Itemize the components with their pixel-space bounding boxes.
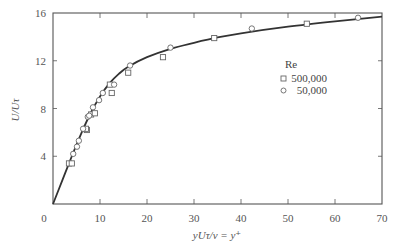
circle-marker — [86, 113, 91, 118]
circle-marker — [71, 151, 76, 156]
square-marker — [69, 161, 74, 166]
circle-marker — [111, 82, 116, 87]
y-axis-tick-labels: 481216 — [35, 7, 47, 162]
y-axis-ticks — [53, 61, 382, 157]
chart: 0 10203040506070 481216 yUτ/ν = y⁺ U/Uτ … — [0, 0, 397, 242]
square-marker — [304, 21, 309, 26]
x-tick-label: 50 — [283, 212, 295, 224]
circle-marker — [249, 26, 254, 31]
square-marker — [109, 90, 114, 95]
legend-title: Re — [285, 58, 297, 70]
x-axis-ticks — [100, 13, 335, 204]
fit-curve — [53, 17, 382, 204]
square-marker — [160, 55, 165, 60]
circle-marker — [96, 97, 101, 102]
square-marker-icon — [281, 76, 286, 81]
y-tick-label: 12 — [35, 55, 46, 67]
theory-curve — [53, 17, 382, 204]
x-tick-label: 20 — [142, 212, 154, 224]
y-tick-label: 4 — [41, 150, 47, 162]
circle-marker-icon — [281, 88, 286, 93]
plot-border — [53, 13, 382, 204]
square-marker — [212, 35, 217, 40]
x-tick-label: 40 — [236, 212, 248, 224]
x-axis-title: yUτ/ν = y⁺ — [192, 229, 242, 241]
y-axis-title: U/Uτ — [9, 98, 21, 122]
x-axis-tick-labels: 10203040506070 — [95, 212, 389, 224]
circle-marker — [168, 45, 173, 50]
circle-marker — [76, 138, 81, 143]
x-tick-label: 70 — [377, 212, 389, 224]
plot-frame — [53, 13, 382, 204]
x-tick-label: 30 — [189, 212, 201, 224]
origin-label: 0 — [41, 212, 47, 224]
square-marker — [126, 70, 131, 75]
circle-marker — [127, 63, 132, 68]
circle-marker — [100, 90, 105, 95]
circle-marker — [80, 126, 85, 131]
legend-label-50000: 50,000 — [297, 84, 328, 96]
legend: Re 500,000 50,000 — [281, 58, 328, 96]
x-tick-label: 60 — [330, 212, 342, 224]
y-tick-label: 8 — [41, 103, 47, 115]
square-marker — [92, 111, 97, 116]
circle-marker — [90, 105, 95, 110]
y-tick-label: 16 — [35, 7, 47, 19]
x-tick-label: 10 — [95, 212, 107, 224]
circle-marker — [74, 144, 79, 149]
circle-marker — [355, 15, 360, 20]
legend-label-500000: 500,000 — [291, 72, 327, 84]
